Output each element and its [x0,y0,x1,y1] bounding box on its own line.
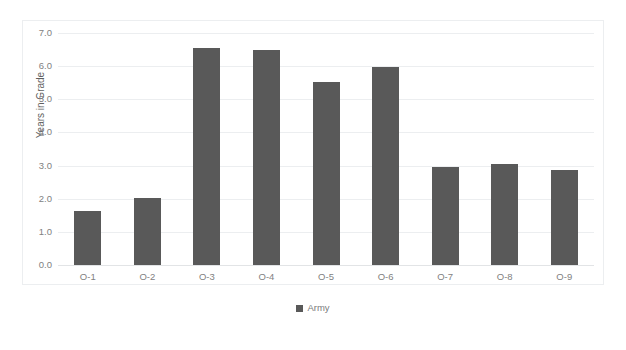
bar-slot [58,33,118,265]
bar-o-1 [74,211,101,265]
x-axis: O-1O-2O-3O-4O-5O-6O-7O-8O-9 [58,270,594,284]
legend-swatch-icon [296,305,303,312]
legend-entry-army[interactable]: Army [296,303,329,313]
x-tick-label-o-6: O-6 [356,270,416,284]
bar-slot [475,33,535,265]
x-tick-label-o-1: O-1 [58,270,118,284]
plot-area [58,33,594,265]
bar-o-8 [491,164,518,265]
bar-chart: Years in Grade 7.06.05.04.03.02.01.00.0 … [0,0,626,350]
legend-label: Army [307,303,329,313]
x-tick-label-o-2: O-2 [118,270,178,284]
gridline [58,265,594,266]
bar-series-army [58,33,594,265]
y-tick-label: 3.0 [26,161,52,171]
y-tick-label: 6.0 [26,61,52,71]
x-tick-label-o-9: O-9 [535,270,595,284]
x-tick-label-o-3: O-3 [177,270,237,284]
y-tick-label: 7.0 [26,28,52,38]
bar-slot [415,33,475,265]
x-tick-label-o-4: O-4 [237,270,297,284]
bar-slot [356,33,416,265]
y-tick-label: 0.0 [26,260,52,270]
bar-o-4 [253,50,280,265]
y-tick-label: 1.0 [26,227,52,237]
y-tick-label: 2.0 [26,194,52,204]
bar-slot [237,33,297,265]
bar-o-9 [551,170,578,265]
bar-slot [535,33,595,265]
chart-title [0,0,626,3]
x-tick-label-o-7: O-7 [415,270,475,284]
bar-o-7 [432,167,459,265]
bar-o-5 [313,82,340,265]
chart-legend: Army [0,303,626,313]
bar-o-3 [193,48,220,265]
bar-slot [177,33,237,265]
bar-o-6 [372,67,399,265]
y-tick-label: 5.0 [26,94,52,104]
y-tick-label: 4.0 [26,127,52,137]
bar-slot [296,33,356,265]
x-tick-label-o-5: O-5 [296,270,356,284]
bar-o-2 [134,198,161,265]
bar-slot [118,33,178,265]
x-tick-label-o-8: O-8 [475,270,535,284]
